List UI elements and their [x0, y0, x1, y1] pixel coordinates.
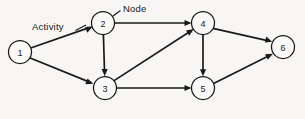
edge-1-to-3	[30, 58, 94, 85]
edge-4-to-6	[213, 28, 272, 42]
edge-5-to-6	[214, 54, 273, 84]
node-2[interactable]: 2	[92, 12, 115, 35]
edge-3-to-5	[117, 85, 192, 91]
node-4[interactable]: 4	[192, 12, 215, 35]
diagram-canvas: 1 2 3 4 5 6	[0, 0, 305, 119]
network-diagram-graphic: 1 2 3 4 5 6	[0, 0, 305, 119]
node-1[interactable]: 1	[9, 41, 32, 64]
activity-annotation-label: Activity	[32, 21, 64, 32]
edge-2-to-3	[102, 35, 108, 77]
edge-2-to-4	[115, 20, 192, 26]
node-5[interactable]: 5	[192, 77, 215, 100]
edge-4-to-5	[200, 35, 206, 77]
node-6[interactable]: 6	[272, 36, 295, 59]
edge-3-to-4	[114, 29, 194, 81]
node-3-label: 3	[102, 84, 107, 94]
node-annotation-label: Node	[123, 3, 147, 14]
node-5-label: 5	[200, 84, 205, 94]
node-1-label: 1	[17, 48, 22, 58]
node-2-label: 2	[100, 19, 105, 29]
node-4-label: 4	[200, 19, 205, 29]
node-3[interactable]: 3	[94, 77, 117, 100]
edge-group	[30, 20, 273, 91]
node-leader-line	[113, 11, 121, 17]
node-6-label: 6	[280, 43, 285, 53]
